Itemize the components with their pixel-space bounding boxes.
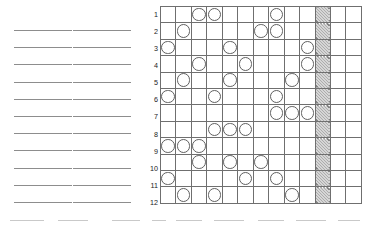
grid-cell[interactable] [300,88,315,104]
grid-cell[interactable] [330,170,345,186]
grid-cell[interactable] [300,56,315,72]
grid-cell[interactable] [176,72,191,88]
grid-cell[interactable] [253,39,268,55]
grid-cell[interactable] [176,138,191,154]
answer-blank-line[interactable] [14,99,72,100]
grid-cell-hatched[interactable] [315,187,330,203]
answer-blank-line[interactable] [14,133,72,134]
grid-cell[interactable] [284,39,299,55]
grid-cell[interactable] [284,154,299,170]
grid-cell[interactable] [284,7,299,23]
grid-cell[interactable] [191,39,206,55]
grid-cell-hatched[interactable] [315,88,330,104]
grid-cell[interactable] [300,7,315,23]
answer-blank-line[interactable] [73,99,131,100]
answer-blank-line[interactable] [14,202,72,203]
grid-cell[interactable] [269,187,284,203]
grid-cell[interactable] [284,138,299,154]
answer-blank-line[interactable] [73,168,131,169]
grid-cell[interactable] [346,39,362,55]
answer-blank-line[interactable] [14,168,72,169]
grid-cell[interactable] [269,23,284,39]
grid-cell[interactable] [300,105,315,121]
grid-cell[interactable] [330,39,345,55]
grid-cell[interactable] [191,187,206,203]
grid-cell[interactable] [238,72,253,88]
grid-cell[interactable] [300,72,315,88]
grid-cell[interactable] [191,56,206,72]
grid-cell[interactable] [191,154,206,170]
grid-cell[interactable] [238,23,253,39]
grid-cell[interactable] [346,88,362,104]
grid-cell-hatched[interactable] [315,39,330,55]
grid-cell[interactable] [222,56,237,72]
grid-cell[interactable] [207,23,222,39]
grid-cell[interactable] [284,23,299,39]
grid-cell[interactable] [253,23,268,39]
grid-cell[interactable] [222,154,237,170]
grid-cell[interactable] [207,72,222,88]
grid-cell[interactable] [191,7,206,23]
answer-blank-line[interactable] [14,82,72,83]
grid-cell[interactable] [222,23,237,39]
grid-cell[interactable] [269,7,284,23]
grid-cell[interactable] [191,88,206,104]
grid-cell[interactable] [238,138,253,154]
grid-cell[interactable] [346,187,362,203]
grid-cell[interactable] [191,121,206,137]
grid-cell[interactable] [284,187,299,203]
grid-cell[interactable] [207,7,222,23]
grid-cell-hatched[interactable] [315,105,330,121]
grid-cell[interactable] [300,138,315,154]
grid-cell[interactable] [300,39,315,55]
grid-cell[interactable] [330,105,345,121]
grid-cell[interactable] [284,56,299,72]
grid-cell[interactable] [176,88,191,104]
grid-cell[interactable] [300,23,315,39]
grid-cell[interactable] [222,7,237,23]
grid-cell[interactable] [300,154,315,170]
grid-cell[interactable] [269,170,284,186]
answer-blank-line[interactable] [73,82,131,83]
grid-cell[interactable] [238,187,253,203]
grid-cell[interactable] [330,72,345,88]
grid-cell[interactable] [191,23,206,39]
grid-cell[interactable] [207,56,222,72]
grid-cell[interactable] [253,170,268,186]
grid-cell[interactable] [176,170,191,186]
grid-cell[interactable] [176,39,191,55]
grid-cell[interactable] [269,154,284,170]
grid-cell[interactable] [222,39,237,55]
grid-cell[interactable] [176,154,191,170]
grid-cell[interactable] [346,23,362,39]
grid-cell-hatched[interactable] [315,138,330,154]
grid-cell-hatched[interactable] [315,170,330,186]
grid-cell[interactable] [238,56,253,72]
grid-cell[interactable] [300,170,315,186]
grid-cell[interactable] [346,170,362,186]
grid-cell[interactable] [191,170,206,186]
grid-cell-hatched[interactable] [315,121,330,137]
grid-cell[interactable] [269,39,284,55]
grid-cell[interactable] [253,56,268,72]
answer-blank-line[interactable] [14,47,72,48]
answer-blank-line[interactable] [14,150,72,151]
grid-cell[interactable] [346,72,362,88]
grid-cell[interactable] [330,187,345,203]
grid-cell[interactable] [346,105,362,121]
grid-cell[interactable] [191,72,206,88]
grid-table[interactable] [160,6,362,204]
grid-cell[interactable] [346,121,362,137]
grid-cell[interactable] [238,105,253,121]
grid-cell-hatched[interactable] [315,7,330,23]
grid-cell[interactable] [253,187,268,203]
grid-cell[interactable] [330,138,345,154]
grid-cell[interactable] [222,138,237,154]
grid-cell[interactable] [222,121,237,137]
grid-cell[interactable] [253,88,268,104]
grid-cell[interactable] [284,121,299,137]
grid-cell-hatched[interactable] [315,23,330,39]
grid-cell[interactable] [161,23,176,39]
grid-cell[interactable] [269,138,284,154]
grid-cell[interactable] [161,187,176,203]
